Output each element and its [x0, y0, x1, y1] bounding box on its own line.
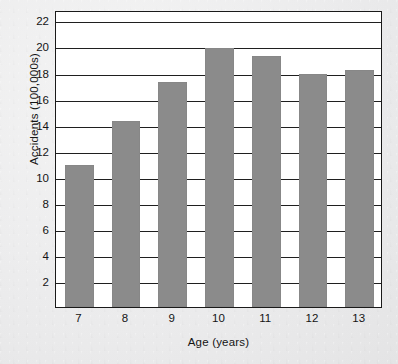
y-tick-label: 14 — [36, 120, 49, 132]
bar — [112, 121, 141, 307]
y-tick-label: 2 — [43, 276, 49, 288]
y-tick-label: 20 — [36, 41, 49, 53]
y-tick-label: 16 — [36, 94, 49, 106]
x-tick-label: 13 — [352, 312, 365, 324]
y-tick-label: 4 — [43, 250, 49, 262]
x-tick-label: 12 — [306, 312, 319, 324]
y-tick-label: 8 — [43, 198, 49, 210]
bar — [65, 165, 94, 307]
plot-area — [55, 11, 382, 308]
y-tick-label: 18 — [36, 68, 49, 80]
bar — [252, 56, 281, 307]
x-tick-label: 7 — [75, 312, 81, 324]
bar — [158, 82, 187, 307]
x-tick-label: 9 — [169, 312, 175, 324]
bar — [205, 48, 234, 307]
y-tick-label: 12 — [36, 146, 49, 158]
bar — [299, 74, 328, 307]
bar — [345, 70, 374, 307]
x-tick-label: 11 — [259, 312, 271, 324]
plot-inner — [56, 12, 381, 307]
y-tick-label: 10 — [36, 172, 49, 184]
y-tick-label: 6 — [43, 224, 49, 236]
x-axis-title: Age (years) — [55, 336, 382, 348]
gridline — [56, 22, 381, 23]
x-tick-label: 8 — [122, 312, 128, 324]
bar-chart-figure: Accidents (100,000s) 246810121416182022 … — [0, 0, 398, 364]
x-tick-label: 10 — [212, 312, 225, 324]
y-tick-label: 22 — [36, 15, 49, 27]
